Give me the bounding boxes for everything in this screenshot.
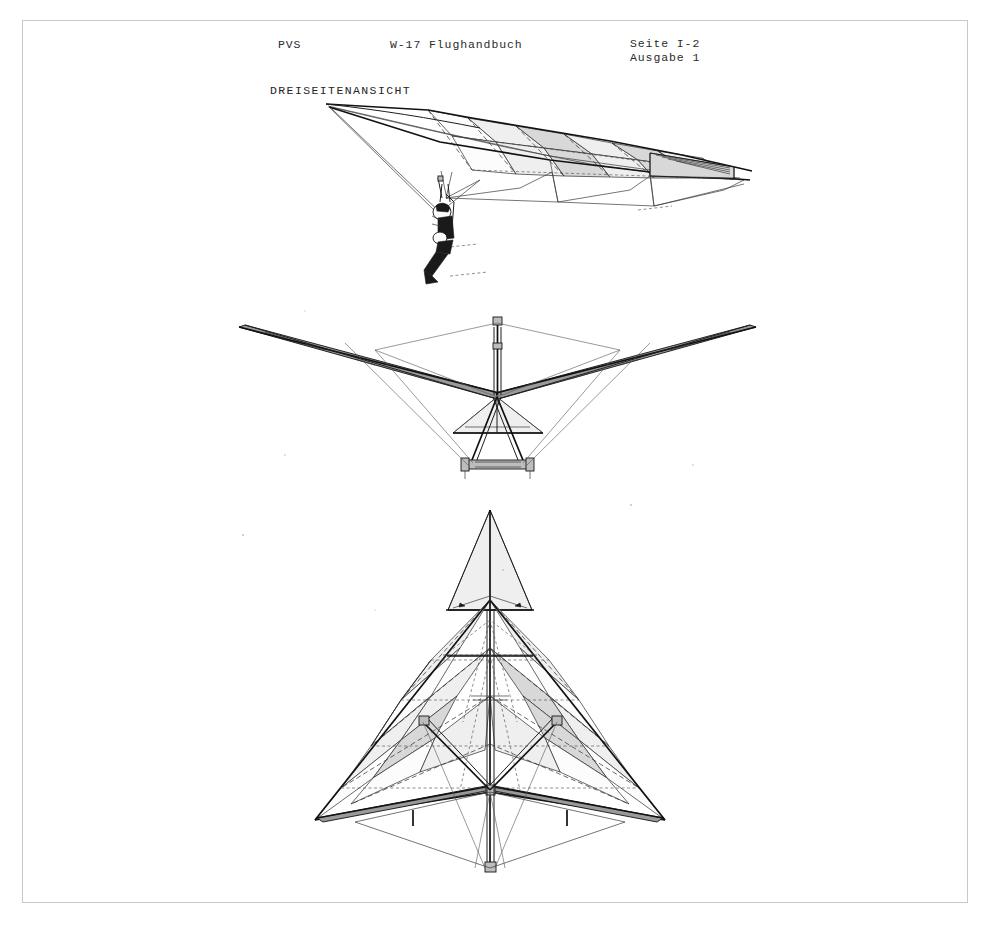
hang-glider-front-view [225,305,770,490]
scan-artifacts-plan [242,504,632,611]
hang-glider-plan-view [195,500,785,875]
right-leading-edge [496,325,756,399]
section-heading: DREISEITENANSICHT [270,84,411,97]
pilot-and-harness [424,176,454,284]
scan-artifacts [284,310,694,466]
sail-front [453,397,543,433]
manual-title: W-17 Flughandbuch [390,38,523,51]
publisher-label: PVS [278,38,301,51]
edition-label: Ausgabe 1 [630,51,700,64]
scanned-manual-page: PVS W-17 Flughandbuch Seite I-2 Ausgabe … [0,0,989,927]
tail-stabilizer [446,510,534,610]
keel-tube-plan [485,600,496,872]
page-number-label: Seite I-2 [630,37,700,50]
ground-dashes [440,206,672,276]
kingpost [493,317,502,395]
hang-glider-perspective-view [320,98,770,298]
left-leading-edge [239,325,499,399]
